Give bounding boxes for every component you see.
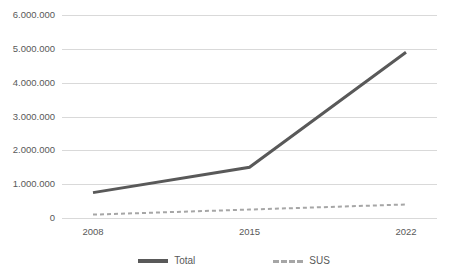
legend-item-sus[interactable]: SUS xyxy=(273,255,330,267)
y-axis-tick-label: 2.000.000 xyxy=(0,145,62,155)
chart-legend: TotalSUS xyxy=(0,251,468,271)
y-axis-tick-label: 3.000.000 xyxy=(0,112,62,122)
y-axis-tick-label: 4.000.000 xyxy=(0,78,62,88)
series-line-sus xyxy=(93,204,406,214)
x-axis-tick-label: 2008 xyxy=(82,226,103,238)
plot-area xyxy=(62,15,437,218)
series-line-total xyxy=(93,52,406,192)
x-axis-tick-label: 2015 xyxy=(239,226,260,238)
legend-label: Total xyxy=(174,255,195,267)
y-axis-tick-label: 5.000.000 xyxy=(0,44,62,54)
line-chart: 6.000.0005.000.0004.000.0003.000.0002.00… xyxy=(0,0,468,277)
y-axis-tick-label: 6.000.000 xyxy=(0,10,62,20)
legend-item-total[interactable]: Total xyxy=(138,255,195,267)
legend-swatch-icon xyxy=(138,259,168,263)
legend-label: SUS xyxy=(309,255,330,267)
legend-swatch-icon xyxy=(273,260,303,263)
y-axis: 6.000.0005.000.0004.000.0003.000.0002.00… xyxy=(0,15,62,218)
x-axis: 200820152022 xyxy=(62,226,437,240)
x-axis-tick-label: 2022 xyxy=(395,226,416,238)
y-axis-tick-label: 1.000.000 xyxy=(0,179,62,189)
gridline xyxy=(62,218,437,219)
y-axis-tick-label: 0 xyxy=(0,213,62,223)
series-layer xyxy=(62,15,437,218)
